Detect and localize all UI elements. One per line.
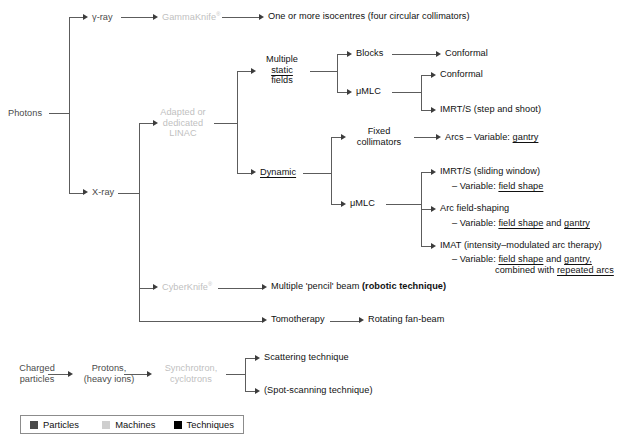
connector-blocks-to-conformal — [392, 54, 436, 55]
connector-to-xray — [69, 193, 83, 194]
connector-protons-to-accelerators — [124, 374, 147, 375]
arrowhead-imrt-step — [431, 107, 436, 113]
legend-item-particles: Particles — [30, 419, 102, 430]
node-tomotherapy: Tomotherapy — [271, 314, 325, 325]
registered-trademark-icon: ® — [216, 11, 220, 17]
node-static-fields-line1: Multiple — [258, 54, 306, 65]
arrowhead-spot-scanning — [255, 388, 260, 394]
connector-to-cyberknife — [139, 288, 153, 289]
node-arcs-variable-gantry: Arcs – Variable: gantry — [445, 132, 538, 143]
arrowhead-scattering — [255, 355, 260, 361]
node-imat-variable: – Variable: field shape and gantry, — [452, 254, 592, 265]
legend-label-machines: Machines — [115, 419, 155, 430]
node-linac: Adapted or dedicated LINAC — [152, 107, 214, 139]
arrowhead-tomotherapy — [262, 317, 267, 323]
connector-umlc-static-stem — [392, 92, 421, 93]
connector-umlc-dynamic-stem — [386, 204, 421, 205]
arrowhead-static-fields — [251, 68, 256, 74]
node-imat: IMAT (intensity–modulated arc therapy) — [440, 240, 602, 251]
arrowhead-conformal-blocks — [436, 51, 441, 57]
arrowhead-blocks — [347, 51, 352, 57]
arrowhead-umlc-dynamic — [341, 201, 346, 207]
imrt-sliding-variable-pre: – Variable: — [452, 181, 498, 191]
arrowhead-cyberknife — [153, 284, 158, 290]
legend-swatch-particles — [30, 421, 38, 429]
connector-accelerators-stem — [226, 374, 245, 375]
imat-variable-mid: and — [543, 254, 564, 264]
node-cyberknife-label: CyberKnife — [162, 282, 208, 292]
node-pencil-beam-emphasis: (robotic technique) — [362, 281, 446, 291]
node-imat-variable-cont: combined with repeated arcs — [495, 265, 614, 276]
legend-swatch-techniques — [174, 421, 182, 429]
node-static-fields-line3: fields — [258, 75, 306, 86]
node-fixed-collimators-line2: collimators — [348, 137, 410, 148]
connector-umlc-static-spine — [421, 75, 422, 110]
node-gammaknife-label: GammaKnife — [162, 12, 216, 22]
arrowhead-gammaknife — [153, 14, 158, 20]
connector-staticfields-stem — [310, 71, 337, 72]
node-charged-particles-line1: Charged — [8, 363, 66, 374]
connector-xray-spine — [139, 123, 140, 321]
imat-variable-1: field shape — [498, 254, 543, 264]
arc-variable-1: field shape — [498, 218, 543, 228]
node-linac-line3: LINAC — [152, 128, 214, 139]
node-cyberknife: CyberKnife® — [162, 282, 212, 293]
node-static-fields-line2: static — [258, 65, 306, 76]
registered-trademark-icon-2: ® — [208, 281, 212, 287]
connector-to-blocks — [337, 54, 347, 55]
arrowhead-fixed-collimators — [341, 134, 346, 140]
connector-to-scattering — [245, 358, 255, 359]
connector-xray-stem — [118, 193, 139, 194]
arrowhead-accelerators — [147, 371, 152, 377]
legend-label-techniques: Techniques — [187, 419, 234, 430]
legend-item-techniques: Techniques — [174, 419, 234, 430]
connector-linac-spine — [237, 71, 238, 173]
arrowhead-gamma — [83, 14, 88, 20]
node-linac-line1: Adapted or — [152, 107, 214, 118]
connector-to-tomotherapy — [139, 321, 262, 322]
connector-to-umlc-dynamic — [331, 204, 341, 205]
arrowhead-fanbeam — [359, 317, 364, 323]
node-blocks: Blocks — [356, 48, 383, 59]
arrowhead-protons — [68, 371, 73, 377]
arrowhead-umlc-static — [347, 89, 352, 95]
node-umlc-dynamic: μMLC — [350, 198, 375, 209]
connector-photons-stem — [49, 113, 69, 114]
node-static-fields: Multiple static fields — [258, 54, 306, 86]
arrowhead-arc-fieldshaping — [431, 206, 436, 212]
node-fixed-collimators-line1: Fixed — [348, 126, 410, 137]
arc-variable-pre: – Variable: — [452, 218, 498, 228]
connector-to-imrt-step — [421, 110, 431, 111]
imat-variable-2: gantry, — [564, 254, 592, 264]
connector-accelerators-spine — [245, 358, 246, 391]
node-arcs-variable: gantry — [513, 132, 539, 142]
node-pencil-beam: Multiple 'pencil' beam (robotic techniqu… — [271, 281, 446, 292]
connector-fixed-collimators-to-arcs — [414, 137, 436, 138]
node-gammaknife: GammaKnife® — [162, 12, 220, 23]
connector-to-static-fields — [237, 71, 251, 72]
connector-photons-spine — [69, 17, 70, 193]
connector-linac-stem — [214, 123, 237, 124]
node-arc-field-shaping: Arc field-shaping — [440, 203, 509, 214]
connector-to-linac — [139, 123, 153, 124]
node-imrt-step-and-shoot: IMRT/S (step and shoot) — [440, 104, 541, 115]
legend: Particles Machines Techniques — [20, 415, 244, 434]
connector-gamma-to-gammaknife — [121, 17, 153, 18]
connector-tomotherapy-to-result — [330, 321, 359, 322]
node-gamma-ray: γ-ray — [92, 12, 113, 23]
node-protons-line1: Protons, — [78, 363, 140, 374]
arc-variable-2: gantry — [564, 218, 590, 228]
arrowhead-isocentres — [259, 14, 264, 20]
node-imrt-sliding-window: IMRT/S (sliding window) — [440, 166, 540, 177]
arc-variable-mid: and — [543, 218, 564, 228]
connector-to-gamma — [69, 17, 83, 18]
node-spot-scanning-technique: (Spot-scanning technique) — [264, 385, 373, 396]
imat-extra-var: repeated arcs — [557, 265, 614, 275]
connector-to-arc-fieldshaping — [421, 209, 431, 210]
imat-extra-pre: combined with — [495, 265, 557, 275]
node-linac-line2: dedicated — [152, 118, 214, 129]
node-isocentres: One or more isocentres (four circular co… — [268, 11, 470, 22]
node-dynamic: Dynamic — [260, 167, 296, 178]
legend-item-machines: Machines — [102, 419, 173, 430]
node-imrt-sliding-variable: – Variable: field shape — [452, 181, 543, 192]
